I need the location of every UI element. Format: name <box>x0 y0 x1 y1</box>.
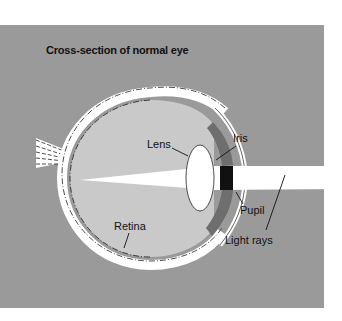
diagram-title: Cross-section of normal eye <box>46 44 189 56</box>
label-lens: Lens <box>147 138 171 150</box>
label-pupil: Pupil <box>240 204 264 216</box>
pupil <box>220 166 233 190</box>
label-retina: Retina <box>114 220 146 232</box>
label-iris: Iris <box>233 132 248 144</box>
lens <box>186 145 214 211</box>
label-light-rays: Light rays <box>225 234 273 246</box>
